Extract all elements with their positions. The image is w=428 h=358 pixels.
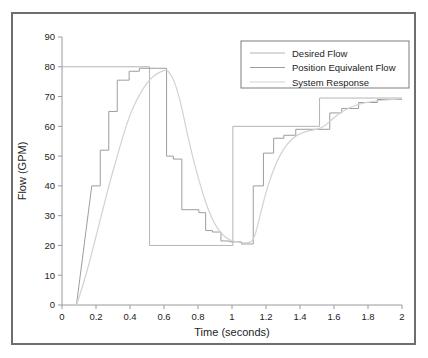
x-tick-label: 2: [399, 311, 404, 322]
y-tick-label: 0: [50, 299, 55, 310]
x-tick-label: 0: [59, 311, 64, 322]
x-tick-label: 1.6: [327, 311, 340, 322]
y-tick-label: 90: [44, 31, 55, 42]
x-tick-label: 1.2: [259, 311, 272, 322]
x-tick-label: 0.2: [89, 311, 102, 322]
y-tick-label: 10: [44, 270, 55, 281]
y-axis-title: Flow (GPM): [16, 142, 28, 201]
chart-plot-area: 010203040506070809000.20.40.60.811.21.41…: [0, 0, 428, 358]
series-line-1: [76, 68, 402, 305]
series-line-0: [62, 67, 402, 246]
x-axis-title: Time (seconds): [194, 326, 269, 338]
y-tick-label: 70: [44, 91, 55, 102]
series-group: [62, 67, 402, 305]
legend-label-1[interactable]: Position Equivalent Flow: [292, 62, 396, 73]
legend-label-0[interactable]: Desired Flow: [292, 48, 348, 59]
x-tick-label: 0.8: [191, 311, 204, 322]
y-tick-label: 60: [44, 121, 55, 132]
y-tick-label: 40: [44, 180, 55, 191]
x-tick-label: 0.4: [123, 311, 136, 322]
figure-container: 010203040506070809000.20.40.60.811.21.41…: [0, 0, 428, 358]
y-tick-label: 30: [44, 210, 55, 221]
legend-label-2[interactable]: System Response: [292, 77, 369, 88]
series-line-2: [76, 70, 402, 305]
y-tick-label: 80: [44, 61, 55, 72]
line-chart: 010203040506070809000.20.40.60.811.21.41…: [0, 0, 428, 358]
chart-legend[interactable]: Desired FlowPosition Equivalent FlowSyst…: [241, 41, 409, 88]
x-tick-label: 1.8: [361, 311, 374, 322]
x-tick-label: 0.6: [157, 311, 170, 322]
x-tick-label: 1: [229, 311, 234, 322]
y-tick-label: 50: [44, 151, 55, 162]
x-tick-label: 1.4: [293, 311, 306, 322]
y-tick-label: 20: [44, 240, 55, 251]
